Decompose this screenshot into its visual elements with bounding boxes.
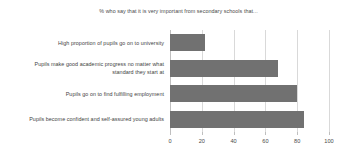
bar[interactable]	[170, 85, 297, 102]
x-tick-mark	[202, 132, 203, 135]
bar-row	[170, 30, 329, 56]
gridline-100	[329, 30, 330, 132]
bar-row	[170, 81, 329, 107]
x-tick-label: 80	[285, 137, 309, 145]
category-label: High proportion of pupils go on to unive…	[14, 30, 164, 56]
bar[interactable]	[170, 34, 205, 51]
x-tick-label: 40	[222, 137, 246, 145]
bar-row	[170, 56, 329, 82]
x-tick-mark	[234, 132, 235, 135]
bar-row	[170, 107, 329, 133]
x-tick-label: 100	[317, 137, 341, 145]
corner-artifact	[3, 146, 27, 155]
category-label: Pupils go on to find fulfilling employme…	[14, 81, 164, 107]
x-tick-mark	[265, 132, 266, 135]
x-tick-mark	[170, 132, 171, 135]
x-tick-label: 60	[253, 137, 277, 145]
bar[interactable]	[170, 60, 278, 77]
x-tick-mark	[297, 132, 298, 135]
category-label: Pupils make good academic progress no ma…	[14, 56, 164, 82]
plot-area	[170, 30, 329, 132]
bar[interactable]	[170, 111, 304, 128]
x-tick-label: 20	[190, 137, 214, 145]
category-label: Pupils become confident and self-assured…	[14, 107, 164, 133]
chart-title: % who say that it is very important from…	[0, 8, 357, 15]
x-tick-label: 0	[158, 137, 182, 145]
bar-chart: % who say that it is very important from…	[0, 0, 357, 160]
x-tick-mark	[329, 132, 330, 135]
